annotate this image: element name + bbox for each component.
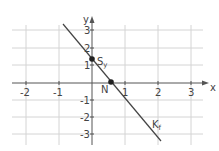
y-axis-label: y — [83, 14, 89, 25]
x-tick-label: 1 — [122, 87, 128, 98]
x-axis-label: x — [210, 82, 216, 93]
x-tick-label: 3 — [188, 87, 194, 98]
point-n — [108, 79, 114, 85]
y-tick-label: -2 — [80, 112, 90, 123]
y-tick-label: -3 — [80, 129, 90, 140]
graph-label-kf: Kf — [152, 119, 162, 132]
point-n-label: N — [101, 84, 108, 95]
x-tick-label: 2 — [155, 87, 161, 98]
x-tick-label: -1 — [53, 87, 63, 98]
y-tick-label: 2 — [84, 43, 90, 54]
x-tick-label: -2 — [20, 87, 30, 98]
coordinate-system: x y -2 -1 1 2 3 3 2 1 -1 -2 -3 Sy N Kf — [0, 0, 219, 151]
y-tick-label: -1 — [80, 95, 90, 106]
y-tick-label: 1 — [84, 60, 90, 71]
y-tick-label: 3 — [84, 25, 90, 36]
